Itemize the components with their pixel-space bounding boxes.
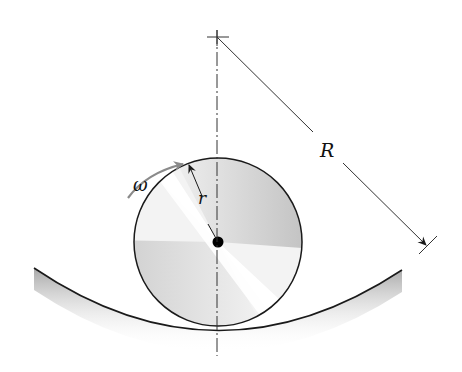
- omega-label: ω: [133, 174, 148, 195]
- large-radius-label: R: [319, 139, 334, 161]
- diagram-canvas: R r ω: [0, 0, 462, 372]
- dimension-tick: [419, 236, 437, 254]
- small-radius-label: r: [198, 188, 207, 208]
